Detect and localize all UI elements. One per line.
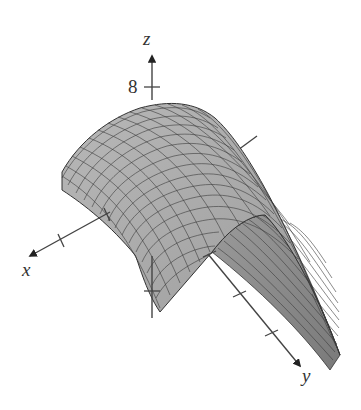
z-axis-label: z — [142, 28, 151, 49]
z-tick-label: 8 — [128, 76, 138, 97]
x-axis-label: x — [21, 259, 31, 280]
axis-x: x — [21, 208, 110, 280]
surface-right-flank — [212, 215, 340, 370]
surface-plot-figure: 8 z — [0, 0, 361, 410]
y-axis-label: y — [300, 365, 311, 386]
axis-z: 8 z — [128, 28, 160, 100]
